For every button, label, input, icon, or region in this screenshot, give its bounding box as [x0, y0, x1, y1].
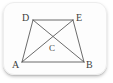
vertex-label-a: A — [12, 60, 19, 70]
geometry-drawing — [0, 0, 113, 83]
side-be — [73, 20, 84, 62]
side-da — [22, 20, 33, 62]
vertex-label-d: D — [22, 13, 29, 23]
geometry-figure-card: D E A B C — [0, 0, 113, 83]
vertex-label-e: E — [76, 13, 82, 23]
interior-label-c: C — [49, 44, 55, 53]
vertex-label-b: B — [86, 60, 93, 70]
diagonal-ae — [22, 20, 73, 62]
diagonal-db — [33, 20, 84, 62]
